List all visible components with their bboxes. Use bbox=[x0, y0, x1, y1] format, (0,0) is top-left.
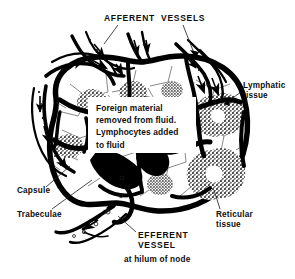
leader-afferent-left bbox=[104, 25, 118, 44]
label-hilum-note: at hilum of node bbox=[124, 255, 190, 265]
lymph-node-diagram: AFFERENT VESSELS Lymphatic tissue Reticu… bbox=[0, 0, 295, 279]
label-trabeculae: Trabeculae bbox=[17, 210, 62, 220]
efferent-flow-arrows bbox=[80, 204, 112, 231]
label-reticular-tissue: Reticular tissue bbox=[216, 210, 253, 229]
label-capsule: Capsule bbox=[17, 186, 50, 196]
label-lymphatic-tissue: Lymphatic tissue bbox=[243, 81, 285, 100]
label-afferent-vessels: AFFERENT VESSELS bbox=[104, 13, 205, 23]
callout-foreign-material-text: Foreign material removed from fluid. Lym… bbox=[96, 102, 178, 151]
label-efferent-vessel: EFFERENT VESSEL bbox=[138, 230, 188, 250]
